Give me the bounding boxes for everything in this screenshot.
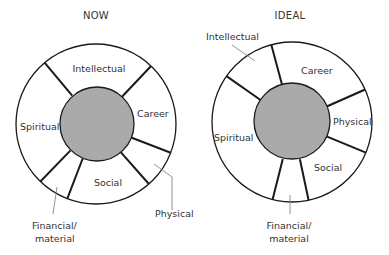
now-label-spiritual: Spiritual <box>20 121 59 132</box>
now-label-financial: Financial/ <box>32 220 78 231</box>
life-balance-wheels: NOW Intellectual Career Spiritual Social… <box>0 0 389 255</box>
ideal-wheel: IDEAL Intellectual Career Physical Spiri… <box>206 10 372 244</box>
now-label-intellectual: Intellectual <box>73 63 126 74</box>
ideal-label-social: Social <box>314 162 342 173</box>
ideal-label-career: Career <box>301 65 333 76</box>
now-hub <box>60 87 134 161</box>
ideal-label-spiritual: Spiritual <box>214 132 253 143</box>
now-wheel: NOW Intellectual Career Spiritual Social… <box>16 10 194 244</box>
ideal-hub <box>254 83 330 159</box>
now-title: NOW <box>83 10 109 21</box>
now-label-career: Career <box>137 108 169 119</box>
ideal-label-intellectual: Intellectual <box>206 31 259 42</box>
ideal-title: IDEAL <box>275 10 306 21</box>
now-label-material: material <box>35 233 75 244</box>
ideal-label-material: material <box>269 233 309 244</box>
now-label-social: Social <box>94 177 122 188</box>
now-label-physical: Physical <box>155 208 194 219</box>
ideal-label-financial: Financial/ <box>267 220 313 231</box>
ideal-label-physical: Physical <box>333 116 372 127</box>
